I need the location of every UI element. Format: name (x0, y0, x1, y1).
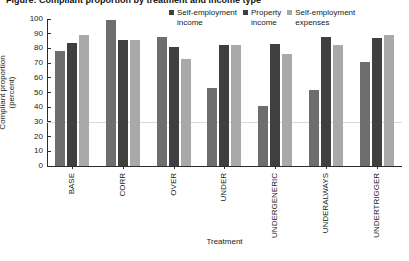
y-axis-tick-label: 0 (39, 162, 47, 170)
bar-group: UNDER (199, 19, 250, 166)
x-axis-tick-label-text: UNDERALWAYS (322, 171, 330, 233)
bar-group: CORR (98, 19, 149, 166)
y-axis-tick-label: 40 (34, 103, 47, 111)
x-axis-title: Treatment (47, 237, 402, 246)
y-axis-tick-label: 80 (34, 44, 47, 52)
bar[interactable] (282, 54, 292, 166)
x-axis-tick-label: OVER (174, 146, 182, 171)
bar-group: UNDERALWAYS (301, 19, 352, 166)
legend-swatch-icon (243, 10, 248, 15)
y-axis-tick-label: 20 (34, 133, 47, 141)
figure-container: Figure: Compliant proportion by treatmen… (0, 0, 409, 261)
bar-group: OVER (148, 19, 199, 166)
x-axis-tick-label-text: UNDERTRIGGER (373, 171, 381, 238)
x-axis-tick-label: UNDERALWAYS (326, 109, 334, 171)
plot-area: 0102030405060708090100BASECORROVERUNDERU… (47, 19, 402, 166)
bar-group: UNDERGENERIC (250, 19, 301, 166)
bar[interactable] (79, 35, 89, 166)
x-axis-tick-label-text: OVER (170, 171, 178, 196)
y-axis-tick-label: 50 (34, 89, 47, 97)
legend-swatch-icon (287, 10, 292, 15)
x-axis-tick-label-text: CORR (119, 171, 127, 197)
x-axis-tick-label: UNDER (224, 141, 232, 171)
bar[interactable] (309, 90, 319, 166)
clipped-figure-title: Figure: Compliant proportion by treatmen… (6, 0, 336, 7)
x-axis-tick-label-text: UNDERGENERIC (271, 171, 279, 238)
y-axis-tick-label: 60 (34, 74, 47, 82)
bar[interactable] (207, 88, 217, 166)
bar-group: BASE (47, 19, 98, 166)
y-axis-tick-label: 10 (34, 147, 47, 155)
y-axis-title: Compliant proportion (percent) (0, 19, 12, 166)
y-axis-tick-label: 100 (30, 15, 47, 23)
bar[interactable] (181, 59, 191, 166)
y-axis-tick-label: 70 (34, 59, 47, 67)
legend-swatch-icon (169, 10, 174, 15)
x-axis-tick-label-text: UNDER (220, 171, 228, 201)
bar[interactable] (360, 62, 370, 166)
bar[interactable] (55, 51, 65, 166)
bar-group-bars (47, 19, 98, 166)
bar-group: UNDERTRIGGER (351, 19, 402, 166)
x-axis-tick-label: UNDERTRIGGER (377, 104, 385, 171)
y-axis-tick-label: 30 (34, 118, 47, 126)
x-axis-tick-label: CORR (123, 145, 131, 171)
bar[interactable] (157, 37, 167, 166)
bar[interactable] (106, 20, 116, 166)
bar[interactable] (258, 106, 268, 166)
x-axis-tick-label: BASE (72, 148, 80, 171)
bar-group-bars (148, 19, 199, 166)
bar[interactable] (231, 45, 241, 166)
bar[interactable] (333, 45, 343, 166)
bar[interactable] (384, 35, 394, 166)
x-axis-tick-label: UNDERGENERIC (275, 104, 283, 171)
x-axis-tick-label-text: BASE (68, 171, 76, 194)
y-axis-tick-label: 90 (34, 30, 47, 38)
bar[interactable] (130, 40, 140, 166)
bar-group-bars (98, 19, 149, 166)
